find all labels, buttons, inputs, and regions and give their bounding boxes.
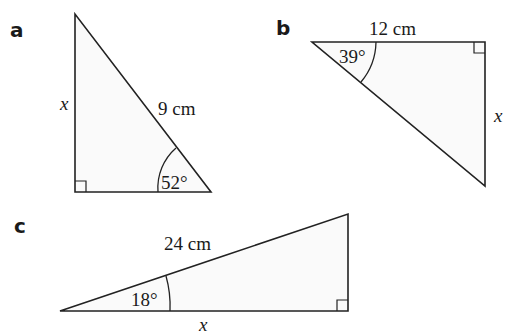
hypotenuse-label-a: 9 cm [158, 98, 196, 119]
triangle-b: b 12 cm 39° x [276, 16, 503, 186]
problem-label-c: c [14, 214, 26, 238]
adjacent-label-b: 12 cm [369, 18, 416, 39]
problem-label-a: a [10, 18, 24, 42]
angle-label-a: 52° [161, 172, 188, 193]
angle-label-b: 39° [339, 46, 366, 67]
triangle-diagrams: a x 9 cm 52° b 12 cm 39° x c 24 cm 18° x [0, 0, 519, 336]
triangle-a: a x 9 cm 52° [10, 14, 211, 193]
unknown-side-a: x [59, 93, 69, 114]
triangle-c: c 24 cm 18° x [14, 214, 348, 335]
unknown-side-b: x [493, 105, 503, 126]
unknown-side-c: x [198, 314, 208, 335]
problem-label-b: b [276, 16, 290, 40]
angle-label-c: 18° [131, 289, 158, 310]
hypotenuse-label-c: 24 cm [164, 233, 211, 254]
triangle-c-shape [60, 214, 348, 311]
triangle-b-shape [312, 42, 485, 186]
